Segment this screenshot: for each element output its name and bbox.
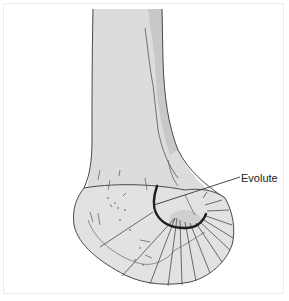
femur-illustration: [0, 0, 289, 301]
femur-shaft: [85, 9, 215, 215]
evolute-label: Evolute: [241, 172, 278, 184]
